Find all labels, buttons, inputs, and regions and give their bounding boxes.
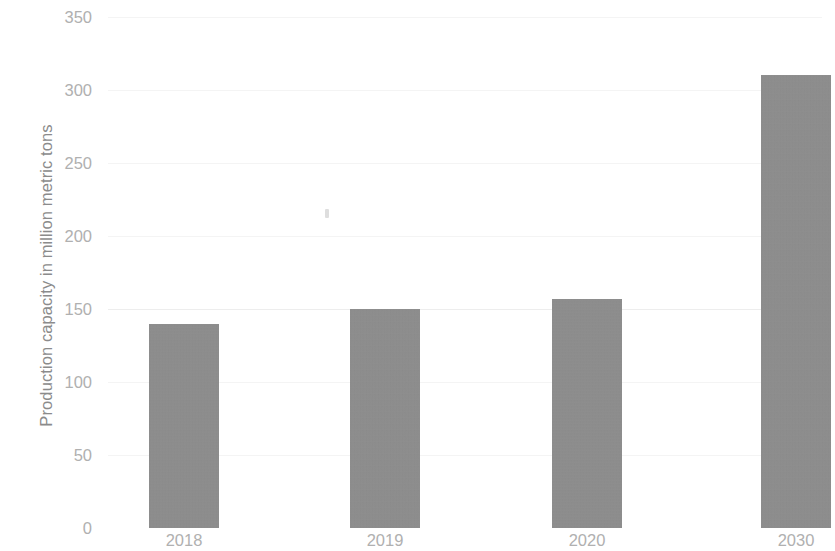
bar: [552, 299, 622, 528]
y-axis-tick-label: 100: [6, 374, 92, 391]
x-axis-tick-label: 2030: [756, 529, 835, 551]
gridline: [108, 163, 822, 164]
bar: [149, 324, 219, 528]
bar: [350, 309, 420, 528]
y-axis-tick-label: 300: [6, 82, 92, 99]
gridline: [108, 90, 822, 91]
y-axis-tick-label: 200: [6, 228, 92, 245]
y-axis-tick-label: 250: [6, 155, 92, 172]
y-axis-tick-labels: 050100150200250300350: [0, 0, 92, 551]
x-axis-tick-label: 2018: [144, 529, 224, 551]
watermark-speck: [325, 209, 329, 218]
x-axis-tick-labels: 2018201920202030: [108, 528, 822, 551]
x-axis-tick-label: 2020: [547, 529, 627, 551]
y-axis-tick-label: 150: [6, 301, 92, 318]
x-axis-tick-label: 2019: [345, 529, 425, 551]
bar: [761, 75, 831, 528]
gridline: [108, 17, 822, 18]
plot-area: [108, 0, 822, 528]
y-axis-tick-label: 0: [6, 520, 92, 537]
y-axis-tick-label: 50: [6, 447, 92, 464]
gridline: [108, 309, 822, 310]
y-axis-tick-label: 350: [6, 9, 92, 26]
gridline: [108, 236, 822, 237]
